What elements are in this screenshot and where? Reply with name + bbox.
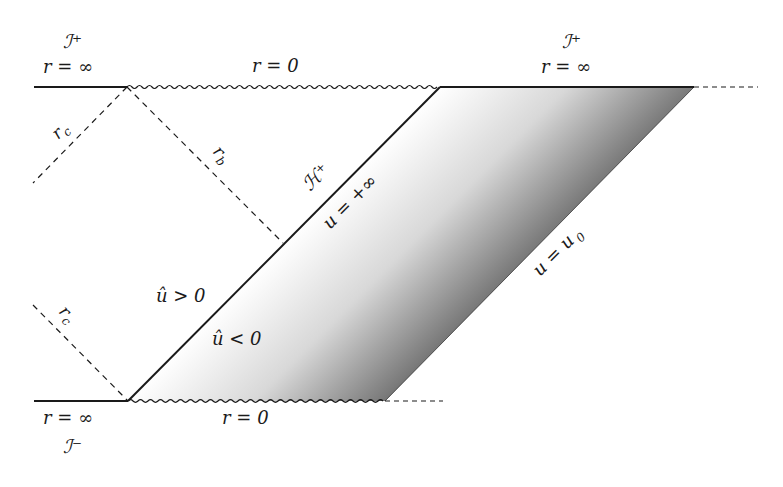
u-hat-negative-label: û < 0	[212, 328, 262, 349]
u-hat-positive-label: û > 0	[156, 285, 206, 306]
r-inf-top-left-label: r = ∞	[43, 56, 93, 77]
scri-plus-right-label: ℐ⁺	[562, 30, 581, 52]
rc-upper-label: r c	[47, 117, 74, 145]
rc-lower-label: r c	[53, 301, 81, 328]
r-inf-bottom-label: r = ∞	[43, 407, 93, 428]
rb-dashed	[127, 87, 283, 243]
shaded-region	[128, 87, 694, 401]
singularity-top	[127, 86, 437, 89]
scri-minus-label: ℐ⁻	[63, 435, 82, 457]
r-zero-top-label: r = 0	[252, 55, 299, 76]
r-zero-bottom-label: r = 0	[222, 407, 269, 428]
rc-upper-dashed	[33, 87, 127, 183]
horizon-label: ℋ⁺	[297, 159, 333, 195]
rb-label: r b	[207, 141, 235, 169]
rc-lower-dashed	[33, 305, 128, 401]
scri-plus-left-label: ℐ⁺	[63, 30, 82, 52]
penrose-diagram: ℐ⁺ r = ∞ r = 0 ℐ⁺ r = ∞ r c r b ℋ⁺ u = +…	[0, 0, 783, 487]
r-inf-top-right-label: r = ∞	[541, 56, 591, 77]
svg-text:ℋ⁺: ℋ⁺	[297, 159, 333, 195]
